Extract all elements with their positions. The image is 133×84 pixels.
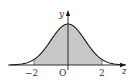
x-axis-label: z: [121, 66, 127, 76]
normal-distribution-chart: y z O −2 2: [0, 0, 133, 84]
y-axis-arrow-icon: [66, 10, 70, 16]
x-tick-label-2: 2: [99, 68, 105, 78]
origin-label: O: [59, 68, 66, 78]
x-tick-label-neg2: −2: [25, 68, 38, 78]
y-axis-label: y: [58, 9, 65, 19]
